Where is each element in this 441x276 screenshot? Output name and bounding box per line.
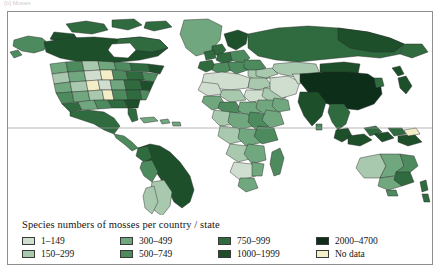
legend-item: 2000–4700 — [316, 235, 414, 246]
legend-swatch — [218, 250, 231, 258]
legend-item: 1–149 — [22, 235, 120, 246]
legend-label: 300–499 — [139, 236, 172, 246]
figure-panel: (b) Mosses .b{stroke:#2b2b2b;stroke-widt… — [0, 0, 441, 276]
legend-label: 500–749 — [139, 249, 172, 259]
legend-label: No data — [335, 249, 365, 259]
legend-label: 750–999 — [237, 236, 270, 246]
caption-remnant: (b) Mosses — [4, 0, 74, 7]
world-map-svg: .b{stroke:#2b2b2b;stroke-width:.45;strok… — [8, 12, 432, 215]
legend-label: 1000–1999 — [237, 249, 280, 259]
legend-item: 500–749 — [120, 248, 218, 259]
legend-swatch — [316, 250, 329, 258]
legend-swatch — [218, 237, 231, 245]
legend-title: Species numbers of mosses per country / … — [22, 219, 422, 231]
legend-item: 300–499 — [120, 235, 218, 246]
legend-label: 1–149 — [41, 236, 65, 246]
legend-item: No data — [316, 248, 414, 259]
legend-label: 2000–4700 — [335, 236, 378, 246]
legend-item: 150–299 — [22, 248, 120, 259]
legend-item: 750–999 — [218, 235, 316, 246]
legend-swatch — [316, 237, 329, 245]
world-map: .b{stroke:#2b2b2b;stroke-width:.45;strok… — [8, 12, 432, 215]
legend-swatch — [22, 250, 35, 258]
map-legend: Species numbers of mosses per country / … — [22, 219, 422, 259]
legend-swatch — [120, 250, 133, 258]
legend-swatch — [120, 237, 133, 245]
legend-items: 1–149300–499750–9992000–4700150–299500–7… — [22, 235, 422, 259]
legend-item: 1000–1999 — [218, 248, 316, 259]
legend-label: 150–299 — [41, 249, 74, 259]
legend-swatch — [22, 237, 35, 245]
